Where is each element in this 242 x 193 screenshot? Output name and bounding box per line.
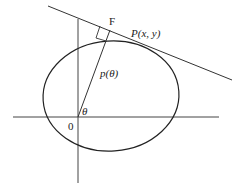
label-foot-point: F: [109, 15, 115, 27]
label-tangent-point: P(x, y): [130, 27, 161, 40]
support-function-diagram: F P(x, y) p(θ) θ 0: [0, 0, 242, 193]
label-angle: θ: [82, 105, 88, 117]
convex-curve: [39, 36, 182, 155]
label-support-function: p(θ): [99, 67, 119, 80]
label-origin: 0: [68, 120, 74, 132]
tangent-line: [48, 6, 232, 80]
